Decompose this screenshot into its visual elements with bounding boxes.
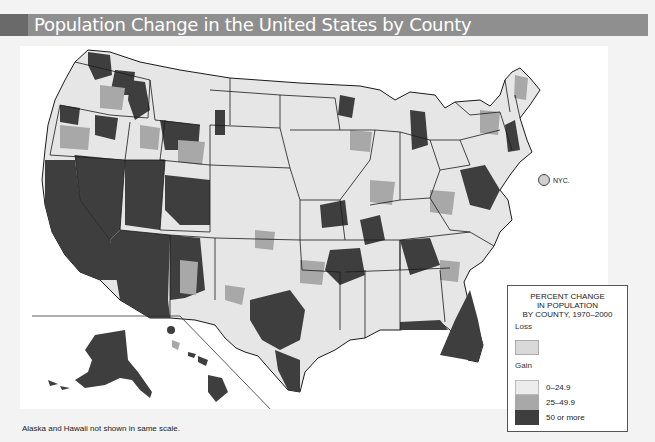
legend-label-0-24: 0–24.9 [546, 383, 570, 392]
nyc-marker: NYC. [538, 174, 570, 186]
legend-swatch-0-24 [515, 380, 539, 395]
legend: PERCENT CHANGE IN POPULATION BY COUNTY, … [507, 285, 628, 432]
legend-swatch-loss [515, 340, 539, 355]
legend-loss-heading: Loss [515, 322, 532, 331]
nyc-label: NYC. [553, 177, 570, 184]
legend-gain-heading: Gain [515, 361, 532, 370]
alaska-shape [75, 330, 152, 398]
page-title: Population Change in the United States b… [34, 14, 471, 36]
legend-swatch-25-49 [515, 395, 539, 410]
legend-title: PERCENT CHANGE IN POPULATION BY COUNTY, … [508, 292, 627, 319]
city-circle-icon [538, 174, 550, 186]
title-accent-block [0, 14, 28, 36]
title-bar: Population Change in the United States b… [0, 14, 648, 36]
legend-label-25-49: 25–49.9 [546, 398, 575, 407]
hawaii-shape [172, 340, 180, 350]
legend-swatch-50-plus [515, 410, 539, 425]
legend-label-50-plus: 50 or more [546, 413, 585, 422]
footnote: Alaska and Hawaii not shown in same scal… [22, 424, 180, 433]
